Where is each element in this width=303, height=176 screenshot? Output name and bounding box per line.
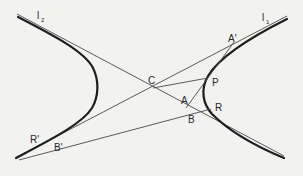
label-l2: l xyxy=(37,10,39,21)
label-point-A-prime: A' xyxy=(228,33,237,44)
label-point-A: A xyxy=(181,95,188,106)
hyperbola-right-branch xyxy=(203,19,287,158)
label-l2-subscript: 2 xyxy=(41,17,45,23)
line-Bprime-R xyxy=(19,109,211,160)
label-point-B: B xyxy=(188,114,195,125)
label-l1: l xyxy=(262,12,264,23)
hyperbola-left-branch xyxy=(16,17,97,158)
label-point-R-prime: R' xyxy=(30,134,39,145)
label-l1-subscript: 1 xyxy=(266,19,270,25)
label-point-P: P xyxy=(212,77,219,88)
hyperbola-diagram: l 2 l 1 C A' P A R B R' B' xyxy=(0,0,303,176)
label-point-B-prime: B' xyxy=(54,142,63,153)
line-Aprime-A xyxy=(186,42,234,108)
line-C-P xyxy=(153,78,208,88)
label-point-R: R xyxy=(215,102,222,113)
label-point-C: C xyxy=(148,75,155,86)
